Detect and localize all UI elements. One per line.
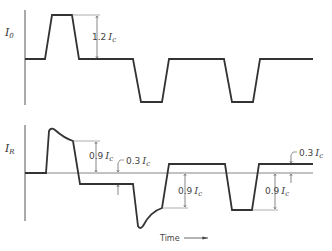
annotation-4: 0.3Ic: [299, 147, 323, 160]
top-plot: I0 1.2Ic: [4, 10, 313, 105]
leader-line: [291, 152, 297, 155]
waveform-diagram: I0 1.2Ic IR 0.9Ic 0.3Ic 0.9Ic 0.9Ic 0.3I…: [0, 0, 332, 251]
top-annotation: 1.2Ic: [92, 31, 116, 44]
annotation-2: 0.9Ic: [178, 185, 202, 198]
top-ylabel: I0: [4, 26, 14, 40]
bottom-plot: IR 0.9Ic 0.3Ic 0.9Ic 0.9Ic 0.3Ic: [4, 125, 323, 228]
time-axis-label: Time: [159, 234, 208, 243]
annotation-3: 0.9Ic: [265, 185, 289, 198]
time-label: Time: [159, 234, 180, 243]
annotation-1: 0.3Ic: [126, 155, 150, 168]
bottom-trace: [25, 129, 313, 228]
bottom-ylabel: IR: [4, 142, 15, 156]
leader-line: [118, 160, 124, 163]
annotation-0: 0.9Ic: [89, 150, 113, 163]
top-trace: [25, 15, 313, 102]
